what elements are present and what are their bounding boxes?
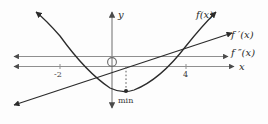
label-f-of-x: f(x) (195, 9, 213, 20)
first-derivative-line (14, 33, 232, 105)
label-y-axis: y (117, 9, 124, 20)
math-figure: f(x) f ′(x) f ″(x) x y -2 4 min (0, 0, 268, 124)
min-label: min (118, 96, 133, 105)
label-f-prime-of-x: f ′(x) (230, 29, 254, 40)
label-f-double-prime-of-x: f ″(x) (230, 47, 255, 58)
graph-canvas: f(x) f ′(x) f ″(x) x y -2 4 min (0, 0, 268, 124)
min-point-marker (124, 89, 128, 93)
x-tick-label-4: 4 (183, 70, 188, 79)
x-tick-label-neg2: -2 (54, 70, 62, 79)
label-x-axis: x (239, 61, 245, 72)
